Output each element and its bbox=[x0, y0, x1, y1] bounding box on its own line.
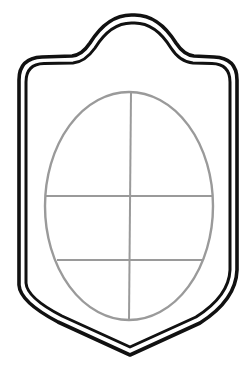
shield-diagram bbox=[0, 0, 251, 368]
